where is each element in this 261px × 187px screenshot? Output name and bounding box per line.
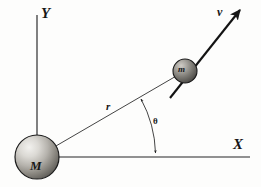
orbiting-mass-label: m	[178, 65, 185, 74]
x-axis-label: X	[233, 137, 243, 152]
central-mass-label: M	[30, 159, 42, 172]
angle-arc	[141, 99, 156, 153]
y-axis-label: Y	[41, 6, 50, 21]
angle-label: θ	[153, 117, 158, 126]
velocity-label: v	[217, 6, 222, 18]
velocity-vector-line	[170, 10, 240, 98]
physics-diagram: Y X M m r θ v	[0, 0, 261, 187]
radius-line	[37, 68, 190, 157]
radius-label: r	[106, 101, 110, 112]
